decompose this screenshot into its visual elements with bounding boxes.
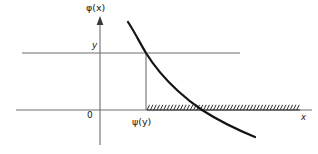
hatch-tick (263, 105, 266, 110)
hatch-tick (287, 105, 290, 110)
hatch-tick (250, 105, 253, 110)
hatch-tick (273, 105, 276, 110)
hatch-tick (233, 105, 236, 110)
hatch-tick (177, 105, 180, 110)
level-value-label: y (92, 41, 97, 50)
hatch-tick (240, 105, 243, 110)
hatch-tick (297, 105, 300, 110)
figure-canvas: φ(x) y 0 ψ(y) x (0, 0, 318, 154)
hatch-tick (164, 105, 167, 110)
hatch-tick (150, 105, 153, 110)
hatch-tick (170, 105, 173, 110)
hatch-tick (204, 105, 207, 110)
origin-label: 0 (87, 111, 93, 120)
horizontal-axis-label: x (301, 113, 306, 122)
hatch-tick (277, 105, 280, 110)
hatch-tick (160, 105, 163, 110)
hatch-tick (257, 105, 260, 110)
hatch-tick (290, 105, 293, 110)
hatch-tick (293, 105, 296, 110)
hatch-tick (187, 105, 190, 110)
hatch-tick (190, 105, 193, 110)
hatch-tick (167, 105, 170, 110)
hatch-tick (154, 105, 157, 110)
hatch-tick (214, 105, 217, 110)
hatch-tick (230, 105, 233, 110)
hatch-tick (224, 105, 227, 110)
hatch-tick (237, 105, 240, 110)
hatch-tick (210, 105, 213, 110)
hatch-tick (253, 105, 256, 110)
vertical-axis-label: φ(x) (86, 3, 105, 13)
hatch-tick (220, 105, 223, 110)
hatch-tick (283, 105, 286, 110)
hatch-tick (267, 105, 270, 110)
hatch-tick (280, 105, 283, 110)
hatched-region (147, 105, 299, 110)
hatch-tick (227, 105, 230, 110)
hatch-tick (217, 105, 220, 110)
axis-arrow-icon (97, 16, 104, 25)
hatch-tick (247, 105, 250, 110)
hatch-tick (174, 105, 177, 110)
hatch-tick (207, 105, 210, 110)
hatch-tick (147, 105, 150, 110)
hatch-tick (184, 105, 187, 110)
hatch-tick (243, 105, 246, 110)
hatch-tick (180, 105, 183, 110)
hatch-tick (270, 105, 273, 110)
plot-svg (0, 0, 318, 154)
hatch-tick (260, 105, 263, 110)
abscissa-psi-label: ψ(y) (132, 117, 151, 127)
hatch-tick (157, 105, 160, 110)
